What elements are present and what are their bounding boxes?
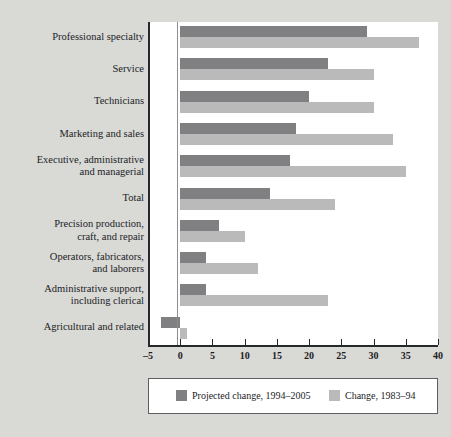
bar bbox=[180, 58, 328, 69]
category-label: Service bbox=[4, 63, 144, 76]
tick-label: 5 bbox=[197, 350, 227, 361]
tick-mark bbox=[341, 339, 342, 345]
y-axis-line bbox=[148, 22, 150, 347]
tick-mark bbox=[309, 339, 310, 345]
tick-label: 20 bbox=[294, 350, 324, 361]
category-label: Marketing and sales bbox=[4, 128, 144, 141]
bar bbox=[180, 220, 219, 231]
bar bbox=[180, 26, 367, 37]
bar bbox=[180, 188, 270, 199]
category-label: Technicians bbox=[4, 95, 144, 108]
tick-label: –5 bbox=[133, 350, 163, 361]
tick-mark bbox=[180, 339, 181, 345]
category-label: Total bbox=[4, 192, 144, 205]
bar bbox=[180, 91, 309, 102]
chart-legend: Projected change, 1994–2005 Change, 1983… bbox=[148, 378, 438, 414]
tick-label: 40 bbox=[423, 350, 451, 361]
legend-entry-change[interactable]: Change, 1983–94 bbox=[329, 390, 416, 401]
bar bbox=[180, 263, 257, 274]
tick-mark bbox=[148, 339, 149, 345]
tick-label: 15 bbox=[262, 350, 292, 361]
category-label: Agricultural and related bbox=[4, 321, 144, 334]
chart-figure: Professional specialtyServiceTechnicians… bbox=[0, 0, 451, 437]
tick-mark bbox=[406, 339, 407, 345]
bar bbox=[180, 37, 418, 48]
bar bbox=[180, 328, 186, 339]
tick-mark bbox=[438, 339, 439, 345]
category-label: Administrative support, including cleric… bbox=[4, 283, 144, 308]
tick-label: 25 bbox=[326, 350, 356, 361]
bar bbox=[180, 231, 244, 242]
category-axis-labels: Professional specialtyServiceTechnicians… bbox=[0, 22, 144, 345]
bar bbox=[180, 166, 406, 177]
bar bbox=[180, 284, 206, 295]
tick-mark bbox=[245, 339, 246, 345]
bar bbox=[180, 69, 373, 80]
bar bbox=[180, 155, 290, 166]
bar bbox=[180, 295, 328, 306]
tick-mark bbox=[374, 339, 375, 345]
category-label: Professional specialty bbox=[4, 31, 144, 44]
legend-swatch-icon bbox=[329, 390, 340, 401]
category-label: Executive, administrative and managerial bbox=[4, 154, 144, 179]
tick-mark bbox=[212, 339, 213, 345]
tick-label: 10 bbox=[230, 350, 260, 361]
legend-swatch-icon bbox=[176, 390, 187, 401]
bar bbox=[180, 123, 296, 134]
zero-reference-line bbox=[177, 22, 178, 345]
tick-label: 35 bbox=[391, 350, 421, 361]
tick-mark bbox=[277, 339, 278, 345]
legend-label: Projected change, 1994–2005 bbox=[192, 390, 311, 401]
bar bbox=[180, 134, 393, 145]
bar bbox=[180, 252, 206, 263]
legend-entry-projected-change[interactable]: Projected change, 1994–2005 bbox=[176, 390, 311, 401]
bar bbox=[180, 199, 335, 210]
category-label: Operators, fabricators, and laborers bbox=[4, 251, 144, 276]
tick-label: 30 bbox=[359, 350, 389, 361]
legend-label: Change, 1983–94 bbox=[345, 390, 416, 401]
category-label: Precision production, craft, and repair bbox=[4, 218, 144, 243]
tick-label: 0 bbox=[165, 350, 195, 361]
bar bbox=[180, 102, 373, 113]
x-axis-line bbox=[148, 345, 438, 347]
